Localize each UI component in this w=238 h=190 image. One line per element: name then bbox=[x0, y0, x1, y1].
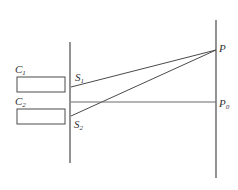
label-p: P bbox=[218, 42, 226, 54]
source-c2 bbox=[17, 109, 65, 124]
label-c2: C2 bbox=[15, 95, 26, 109]
label-c1: C1 bbox=[15, 63, 26, 77]
label-s1: S1 bbox=[75, 71, 84, 85]
ray-s2-to-p bbox=[71, 50, 216, 116]
ray-s1-to-p bbox=[71, 50, 216, 87]
diagram-canvas: C1 C2 S1 S2 P P0 bbox=[0, 0, 238, 190]
label-s2: S2 bbox=[74, 118, 84, 132]
source-c1 bbox=[17, 77, 65, 92]
label-p0: P0 bbox=[218, 97, 230, 111]
